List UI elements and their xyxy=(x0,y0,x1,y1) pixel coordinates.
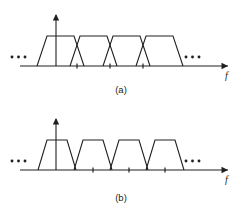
frequency-axis-label: f xyxy=(225,174,229,185)
panel-a: f (a) xyxy=(0,0,242,105)
ellipsis-right xyxy=(185,160,201,163)
ellipsis-dot xyxy=(11,56,14,59)
spectral-replica-1 xyxy=(37,36,84,66)
spectral-replica-3 xyxy=(110,140,148,170)
ellipsis-left xyxy=(11,160,27,163)
panel-a-plot: f xyxy=(0,0,242,84)
spectral-replica-4 xyxy=(146,140,184,170)
ellipsis-left xyxy=(11,56,27,59)
figure-spectral-replicas: f (a) f (b) xyxy=(0,0,242,209)
spectral-replica-1 xyxy=(38,140,76,170)
frequency-axis-arrowhead xyxy=(222,63,229,69)
spectral-replica-2 xyxy=(74,140,112,170)
ellipsis-dot xyxy=(191,160,194,163)
ellipsis-dot xyxy=(198,160,201,163)
ellipsis-dot xyxy=(24,56,27,59)
ellipsis-dot xyxy=(17,56,20,59)
ellipsis-dot xyxy=(11,160,14,163)
frequency-axis-arrowhead xyxy=(222,167,229,173)
ellipsis-dot xyxy=(185,160,188,163)
panel-b-plot: f xyxy=(0,104,242,192)
ellipsis-right xyxy=(185,56,201,59)
spectral-replica-4 xyxy=(136,36,183,66)
spectral-replica-2 xyxy=(70,36,117,66)
vertical-axis-arrowhead xyxy=(53,14,59,21)
ellipsis-dot xyxy=(198,56,201,59)
ellipsis-dot xyxy=(17,160,20,163)
frequency-axis-label: f xyxy=(225,70,229,81)
panel-b-caption: (b) xyxy=(0,192,242,203)
ellipsis-dot xyxy=(191,56,194,59)
ellipsis-dot xyxy=(24,160,27,163)
panel-b: f (b) xyxy=(0,104,242,209)
vertical-axis-arrowhead xyxy=(53,118,59,125)
spectral-replica-3 xyxy=(103,36,150,66)
panel-a-caption: (a) xyxy=(0,84,242,95)
ellipsis-dot xyxy=(185,56,188,59)
